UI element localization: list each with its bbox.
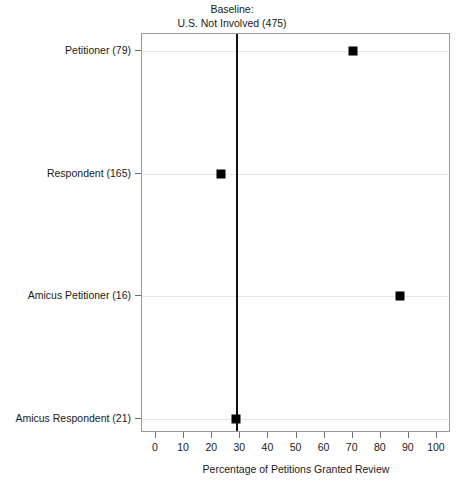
baseline-annotation-line1: Baseline: — [177, 3, 286, 17]
y-axis-tick — [135, 50, 141, 51]
x-axis-tick — [324, 432, 325, 438]
data-point-marker — [348, 47, 357, 56]
x-axis-tick-label: 10 — [177, 441, 189, 453]
x-axis-tick-label: 60 — [318, 441, 330, 453]
data-point-marker — [396, 292, 405, 301]
x-axis-tick — [408, 432, 409, 438]
y-axis-category-label: Amicus Respondent (21) — [15, 412, 131, 423]
x-axis-tick-label: 90 — [402, 441, 414, 453]
x-axis-tick-label: 70 — [346, 441, 358, 453]
x-axis-tick-label: 40 — [262, 441, 274, 453]
data-point-marker — [232, 414, 241, 423]
data-point-marker — [216, 169, 225, 178]
gridline-horizontal — [142, 419, 449, 420]
x-axis-title: Percentage of Petitions Granted Review — [203, 463, 390, 475]
plot-area — [141, 33, 450, 432]
x-axis-tick-label: 30 — [233, 441, 245, 453]
x-axis-tick — [267, 432, 268, 438]
x-axis-tick-label: 100 — [427, 441, 445, 453]
x-axis-tick — [155, 432, 156, 438]
chart-figure: Baseline: U.S. Not Involved (475) Petiti… — [0, 0, 462, 487]
x-axis-tick — [296, 432, 297, 438]
x-axis-tick — [436, 432, 437, 438]
y-axis-category-label: Respondent (165) — [47, 167, 131, 178]
x-axis-tick-label: 20 — [205, 441, 217, 453]
baseline-rule — [236, 34, 238, 431]
y-axis-category-label: Amicus Petitioner (16) — [28, 290, 131, 301]
x-axis-tick — [380, 432, 381, 438]
y-axis-tick — [135, 173, 141, 174]
x-axis-tick — [352, 432, 353, 438]
x-axis-tick — [183, 432, 184, 438]
gridline-horizontal — [142, 51, 449, 52]
y-axis-tick — [135, 418, 141, 419]
baseline-annotation-line2: U.S. Not Involved (475) — [177, 17, 286, 31]
x-axis-tick — [239, 432, 240, 438]
x-axis-tick — [211, 432, 212, 438]
baseline-annotation: Baseline: U.S. Not Involved (475) — [177, 3, 286, 30]
x-axis-tick-label: 50 — [290, 441, 302, 453]
x-axis-tick-label: 0 — [152, 441, 158, 453]
x-axis-tick-label: 80 — [374, 441, 386, 453]
gridline-horizontal — [142, 174, 449, 175]
y-axis-tick — [135, 295, 141, 296]
y-axis-category-label: Petitioner (79) — [65, 45, 131, 56]
